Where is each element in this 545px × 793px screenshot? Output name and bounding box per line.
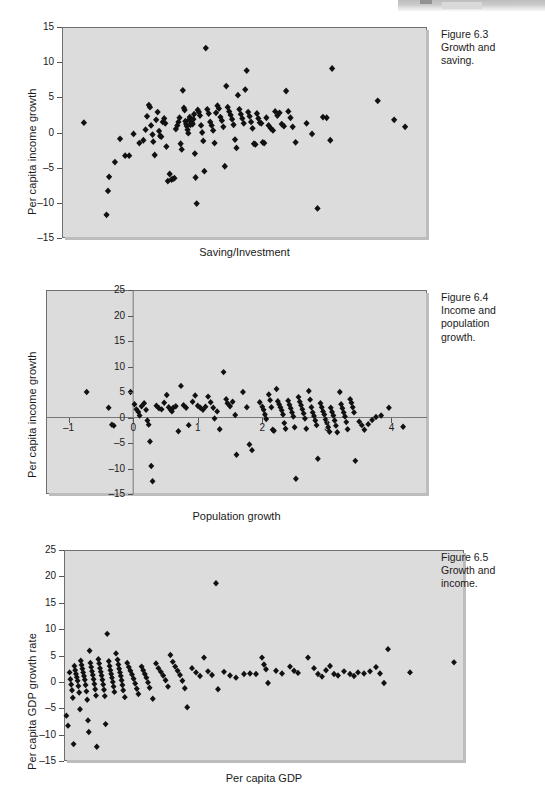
data-point xyxy=(103,211,109,218)
data-point xyxy=(215,686,221,692)
y-tick-label: –10 xyxy=(99,463,125,474)
y-tick-label: 20 xyxy=(99,310,125,321)
data-point xyxy=(222,163,228,170)
data-point xyxy=(153,116,159,123)
data-point xyxy=(144,113,150,120)
data-point xyxy=(111,689,117,695)
data-point xyxy=(194,200,200,207)
data-point xyxy=(249,447,255,453)
data-point xyxy=(234,452,240,458)
data-point xyxy=(143,407,149,413)
y-axis-label-2: Per capita income growth xyxy=(26,351,38,478)
data-point xyxy=(68,681,74,687)
data-point xyxy=(232,136,238,143)
data-point xyxy=(96,660,102,666)
data-point xyxy=(117,135,123,142)
data-point xyxy=(265,680,271,686)
y-tick-label: –5 xyxy=(99,437,125,448)
data-point xyxy=(205,668,211,674)
data-point xyxy=(148,122,154,129)
data-point xyxy=(189,665,195,671)
data-point xyxy=(386,405,392,411)
data-point xyxy=(361,670,367,676)
data-point xyxy=(112,159,118,166)
data-point xyxy=(134,686,140,692)
data-point xyxy=(281,420,287,426)
x-tick-mark xyxy=(391,418,392,423)
data-point xyxy=(161,400,167,406)
x-axis-label-3: Per capita GDP xyxy=(64,772,464,784)
y-tick-label: –15 xyxy=(28,232,54,243)
data-point xyxy=(227,672,233,678)
data-point xyxy=(179,146,185,153)
y-tick-mark xyxy=(57,238,62,239)
data-point xyxy=(247,670,253,676)
data-point xyxy=(402,123,408,130)
data-point xyxy=(92,686,98,692)
data-point xyxy=(209,672,215,678)
data-point xyxy=(287,114,293,121)
data-point xyxy=(233,145,239,152)
data-point xyxy=(375,97,381,104)
figure-6-4: Per capita income growth 2520151050–5–10… xyxy=(0,262,545,540)
caption-line: saving. xyxy=(441,54,545,67)
data-point xyxy=(190,398,196,404)
data-point xyxy=(337,389,343,395)
caption-line: growth. xyxy=(441,331,545,344)
data-point xyxy=(103,721,109,727)
data-point xyxy=(179,678,185,684)
data-point xyxy=(306,388,312,394)
x-tick-mark xyxy=(262,418,263,423)
y-tick-mark xyxy=(128,469,133,470)
scatter-points-1 xyxy=(62,27,427,238)
data-point xyxy=(106,658,112,664)
data-point xyxy=(315,456,321,462)
x-axis-label-2: Population growth xyxy=(46,510,427,522)
y-tick-mark xyxy=(59,576,64,577)
data-point xyxy=(150,478,156,484)
data-point xyxy=(345,426,351,432)
y-tick-mark xyxy=(59,603,64,604)
y-tick-label: –5 xyxy=(28,162,54,173)
data-point xyxy=(85,717,91,723)
data-point xyxy=(451,659,457,665)
data-point xyxy=(200,138,206,145)
y-tick-label: –10 xyxy=(28,197,54,208)
x-tick-label: 4 xyxy=(381,422,401,433)
figure-6-5: Per capita GDP growth rate 2520151050–5–… xyxy=(0,540,545,793)
data-point xyxy=(163,143,169,150)
data-point xyxy=(341,668,347,674)
data-point xyxy=(274,386,280,392)
data-point xyxy=(84,389,90,395)
data-point xyxy=(242,86,248,93)
data-point xyxy=(249,125,255,132)
data-point xyxy=(101,687,107,693)
data-point xyxy=(91,676,97,682)
data-point xyxy=(212,415,218,421)
data-point xyxy=(290,123,296,130)
y-tick-mark xyxy=(57,133,62,134)
y-tick-label: 20 xyxy=(30,570,56,581)
data-point xyxy=(75,683,81,689)
data-point xyxy=(205,393,211,399)
x-tick-mark xyxy=(69,418,70,423)
x-tick-mark xyxy=(198,418,199,423)
x-tick-mark xyxy=(133,418,134,423)
data-point xyxy=(104,631,110,637)
y-tick-label: 5 xyxy=(30,650,56,661)
data-point xyxy=(87,648,93,654)
data-point xyxy=(150,138,156,145)
data-point xyxy=(314,205,320,212)
data-point xyxy=(152,152,158,159)
data-point xyxy=(106,173,112,180)
data-point xyxy=(99,677,105,683)
figure-6-3: Per capita income growth 151050–5–10–15 … xyxy=(0,0,545,262)
data-point xyxy=(63,712,69,718)
data-point xyxy=(385,646,391,652)
y-tick-label: 0 xyxy=(30,676,56,687)
data-point xyxy=(220,123,226,130)
data-point xyxy=(67,669,73,675)
y-tick-mark xyxy=(128,316,133,317)
data-point xyxy=(367,668,373,674)
data-point xyxy=(192,174,198,181)
